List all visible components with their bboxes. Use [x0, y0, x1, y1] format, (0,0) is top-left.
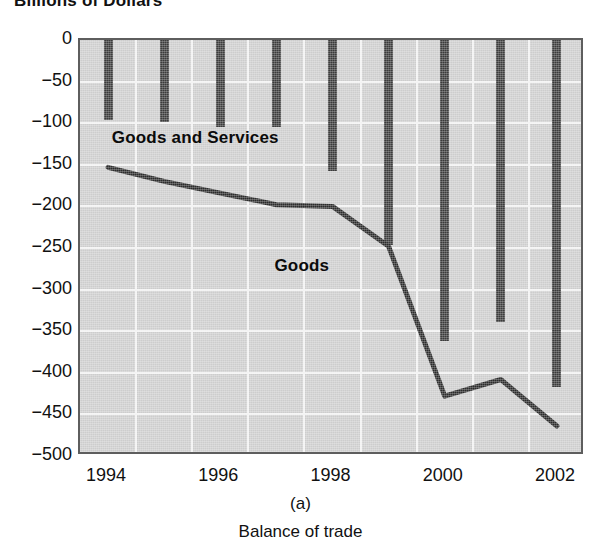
y-axis-tick-label: 0: [6, 29, 72, 47]
figure-caption: Balance of trade: [0, 522, 601, 542]
series-label-goods-and-services: Goods and Services: [112, 128, 279, 148]
y-axis-tick-label: −400: [6, 362, 72, 380]
y-axis-tick-label: −250: [6, 237, 72, 255]
y-axis-tick-label: −500: [6, 445, 72, 463]
line-series-goods: [80, 40, 583, 454]
x-axis-tick-label: 2002: [510, 466, 600, 484]
figure-container: Billions of Dollars 0−50−100−150−200−250…: [0, 0, 601, 555]
panel-letter: (a): [0, 494, 601, 514]
y-axis-tick-label: −100: [6, 112, 72, 130]
y-axis-tick-label: −150: [6, 154, 72, 172]
series-label-goods: Goods: [274, 256, 329, 276]
y-axis-tick-label: −350: [6, 320, 72, 338]
x-axis-tick-label: 1996: [173, 466, 263, 484]
y-axis-tick-label: −300: [6, 279, 72, 297]
y-axis-tick-label: −450: [6, 403, 72, 421]
x-axis-tick-label: 1994: [61, 466, 151, 484]
x-axis-tick-label: 2000: [398, 466, 488, 484]
y-axis-tick-label: −200: [6, 195, 72, 213]
x-axis-tick-label: 1998: [286, 466, 376, 484]
y-axis-tick-label: −50: [6, 71, 72, 89]
plot-area: Goods and Services Goods: [78, 38, 583, 454]
